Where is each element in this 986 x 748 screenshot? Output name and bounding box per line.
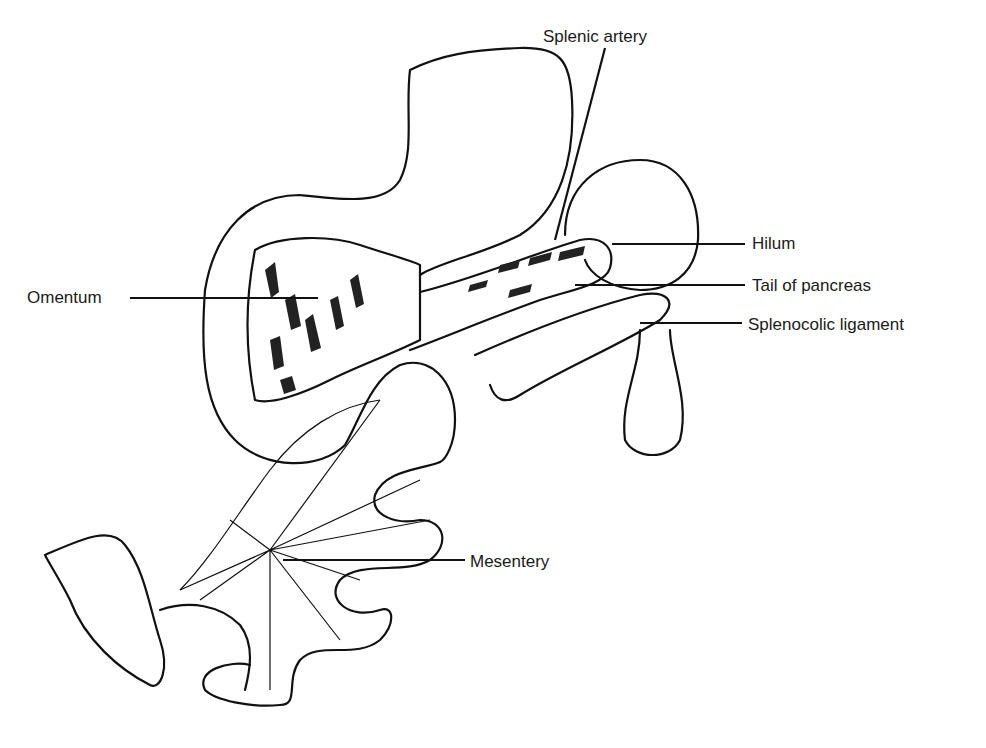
descending-colon: [624, 330, 683, 455]
anatomy-drawing: [0, 0, 986, 748]
label-mesentery: Mesentery: [470, 553, 549, 570]
label-omentum: Omentum: [27, 289, 102, 306]
label-splenic-artery: Splenic artery: [543, 28, 647, 45]
label-hilum: Hilum: [752, 235, 795, 252]
transverse-colon: [475, 294, 669, 400]
label-tail-of-pancreas: Tail of pancreas: [752, 277, 871, 294]
mesentery-fan: [180, 400, 430, 690]
omentum-hatching: [248, 238, 421, 401]
leader-splenic-artery: [555, 48, 605, 240]
spleen-outline: [565, 160, 698, 290]
ascending-colon: [45, 535, 164, 685]
small-bowel: [203, 462, 442, 706]
label-splenocolic-ligament: Splenocolic ligament: [748, 316, 904, 333]
